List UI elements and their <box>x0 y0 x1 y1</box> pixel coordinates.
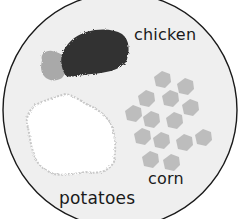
plate-diagram <box>0 0 239 219</box>
label-potatoes: potatoes <box>59 190 135 207</box>
label-corn: corn <box>148 171 184 187</box>
label-chicken: chicken <box>134 27 196 43</box>
